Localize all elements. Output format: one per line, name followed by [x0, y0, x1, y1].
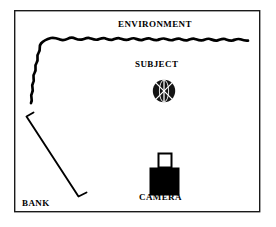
label-subject: SUBJECT — [135, 60, 178, 69]
subject-sphere — [153, 80, 175, 102]
camera-lens — [159, 154, 172, 168]
wavy-environment-line — [31, 38, 248, 103]
label-environment: ENVIRONMENT — [118, 20, 192, 29]
label-bank-light-line1: BANK — [22, 199, 54, 208]
label-bank-light: BANK LIGHT — [22, 180, 54, 227]
lighting-setup-diagram: ENVIRONMENT SUBJECT CAMERA BANK LIGHT — [0, 0, 276, 227]
label-camera: CAMERA — [139, 193, 182, 202]
camera-body — [150, 154, 179, 196]
camera-housing — [150, 168, 179, 195]
